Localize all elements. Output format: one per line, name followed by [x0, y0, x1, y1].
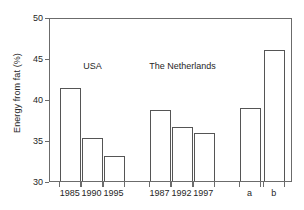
x-tick-mark	[171, 182, 172, 187]
x-tick-mark	[260, 182, 261, 187]
x-tick-mark	[284, 182, 285, 187]
group-annotation: The Netherlands	[149, 61, 216, 71]
x-tick-mark	[124, 182, 125, 187]
x-tick-mark	[103, 182, 104, 187]
bar	[264, 50, 285, 181]
bars-container: USAThe Netherlands	[50, 19, 291, 181]
y-tick-label: 40	[3, 95, 43, 105]
bar	[172, 127, 193, 181]
bar	[60, 88, 81, 181]
y-tick-label: 50	[3, 13, 43, 23]
plot-area: USAThe Netherlands	[49, 18, 292, 182]
x-tick-mark	[214, 182, 215, 187]
y-axis-ticks: 3035404550	[0, 18, 49, 182]
y-tick-label: 35	[3, 136, 43, 146]
x-tick-mark	[239, 182, 240, 187]
x-tick-mark	[81, 182, 82, 187]
bar	[82, 138, 103, 181]
y-tick-label: 30	[3, 177, 43, 187]
x-tick-label: 1985	[60, 188, 80, 198]
x-tick-label: a	[247, 188, 252, 198]
bar	[104, 156, 125, 181]
x-tick-label: 1997	[193, 188, 213, 198]
chart-figure: Energy from fat (%) 3035404550 USAThe Ne…	[0, 0, 304, 210]
bar	[194, 133, 215, 181]
x-tick-mark	[149, 182, 150, 187]
group-annotation: USA	[83, 61, 102, 71]
y-tick-label: 45	[3, 54, 43, 64]
x-tick-label: 1992	[171, 188, 191, 198]
x-axis-tick-labels: 198519901995198719921997ab	[49, 188, 292, 204]
x-tick-label: 1995	[103, 188, 123, 198]
x-tick-label: 1990	[82, 188, 102, 198]
x-tick-mark	[263, 182, 264, 187]
x-tick-mark	[193, 182, 194, 187]
bar	[150, 110, 171, 181]
x-tick-label: 1987	[150, 188, 170, 198]
x-tick-label: b	[271, 188, 276, 198]
bar	[240, 108, 261, 181]
x-tick-mark	[59, 182, 60, 187]
